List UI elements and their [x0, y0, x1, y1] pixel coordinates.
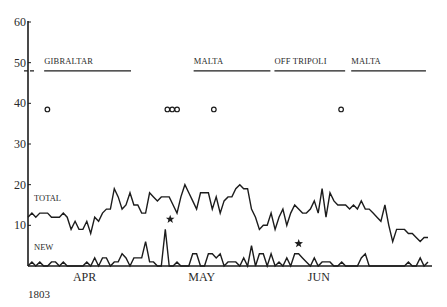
circle-event-marker — [45, 107, 50, 112]
circle-markers — [45, 107, 343, 112]
series-line-total — [28, 185, 428, 242]
star-event-marker — [166, 215, 175, 223]
y-tick-label: 30 — [14, 137, 26, 151]
month-label: MAY — [188, 270, 215, 284]
month-label: APR — [73, 270, 96, 284]
y-tick-label: 10 — [14, 218, 26, 232]
circle-event-marker — [165, 107, 170, 112]
location-label: MALTA — [194, 56, 224, 66]
circle-event-marker — [339, 107, 344, 112]
circle-event-marker — [212, 107, 217, 112]
circle-event-marker — [170, 107, 175, 112]
y-tick-label: 40 — [14, 96, 26, 110]
circle-event-marker — [175, 107, 180, 112]
year-label: 1803 — [28, 288, 51, 300]
series-label-new: NEW — [34, 242, 53, 252]
chart-canvas: 102030405060APRMAYJUN1803 GIBRALTARMALTA… — [0, 0, 447, 307]
series-line-new — [28, 229, 428, 266]
location-label: MALTA — [351, 56, 381, 66]
location-bars: GIBRALTARMALTAOFF TRIPOLIMALTA — [44, 56, 426, 71]
star-markers — [166, 215, 303, 248]
location-label: OFF TRIPOLI — [274, 56, 326, 66]
star-event-marker — [294, 239, 303, 247]
series-lines — [28, 185, 428, 266]
labels: TOTALNEW — [34, 193, 61, 252]
location-label: GIBRALTAR — [44, 56, 93, 66]
series-label-total: TOTAL — [34, 193, 61, 203]
y-tick-label: 50 — [14, 56, 26, 70]
month-label: JUN — [308, 270, 330, 284]
y-tick-label: 60 — [14, 15, 26, 29]
y-tick-label: 20 — [14, 178, 26, 192]
